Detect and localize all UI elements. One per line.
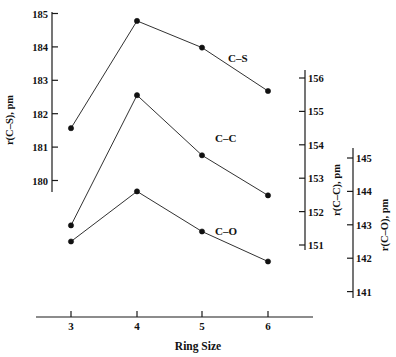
right-axis-tick-label: 144 [356,186,373,197]
series-c-c-line [71,95,268,225]
series-c-o-line [71,191,268,261]
x-axis-tick-label: 3 [68,320,74,332]
data-point [134,18,139,23]
data-point [68,223,73,228]
series-label-c-s: C–S [228,52,248,64]
middle-axis-tick-label: 154 [308,140,325,151]
data-point [199,45,204,50]
data-point [134,189,139,194]
x-axis-group: 3 4 5 6 Ring Size [36,311,313,353]
middle-axis-tick-label: 153 [308,173,324,184]
series-c-s-line [71,21,268,128]
series-c-o: C–O [68,189,270,264]
series-c-c: C–C [68,93,270,228]
data-point [199,153,204,158]
middle-axis-title: r(C–C), pm [331,164,343,216]
left-axis-tick-label: 184 [32,42,49,53]
middle-axis-tick-label: 156 [308,73,324,84]
chart-plot-area: 185 184 183 182 181 180 r(C–S), pm 156 1… [0,0,396,357]
middle-axis-tick-label: 152 [308,207,324,218]
left-axis-tick-label: 182 [32,109,48,120]
left-axis-tick-label: 180 [32,176,48,187]
chart-figure: 185 184 183 182 181 180 r(C–S), pm 156 1… [0,0,396,357]
right-axis-tick-label: 143 [356,220,372,231]
left-axis-tick-label: 185 [32,9,48,20]
left-axis-group: 185 184 183 182 181 180 r(C–S), pm [4,9,58,193]
data-point [265,259,270,264]
x-axis-tick-label: 6 [265,320,271,332]
data-point [68,126,73,131]
left-axis-tick-label: 183 [32,75,48,86]
data-point [265,193,270,198]
right-axis-title: r(C–O), pm [379,199,391,252]
right-axis-tick-label: 145 [356,153,372,164]
middle-axis-tick-label: 151 [308,240,324,251]
middle-axis-tick-label: 155 [308,106,324,117]
right-axis-tick-label: 141 [356,287,372,298]
x-axis-title: Ring Size [175,340,221,353]
series-label-c-o: C–O [215,225,237,237]
x-axis-tick-label: 5 [199,320,205,332]
middle-axis-group: 156 155 154 153 152 151 r(C–C), pm [299,70,343,251]
data-point [265,88,270,93]
data-point [199,229,204,234]
data-point [134,93,139,98]
right-axis-group: 145 144 143 142 141 r(C–O), pm [347,148,391,298]
data-point [68,239,73,244]
right-axis-tick-label: 142 [356,253,372,264]
series-c-s: C–S [68,18,270,131]
x-axis-tick-label: 4 [134,320,140,332]
left-axis-title: r(C–S), pm [4,95,16,145]
left-axis-tick-label: 181 [32,142,48,153]
series-label-c-c: C–C [215,132,236,144]
